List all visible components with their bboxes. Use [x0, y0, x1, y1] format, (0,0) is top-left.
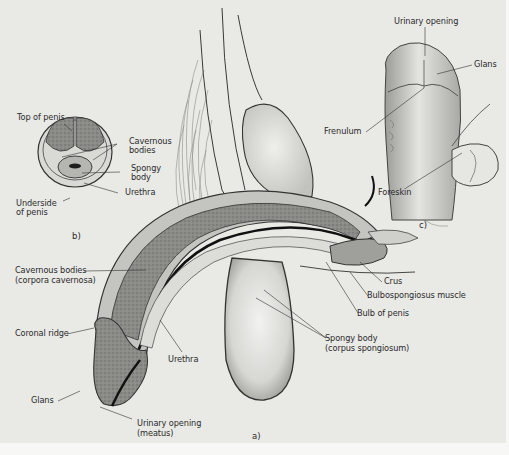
label-urethra-b: Urethra — [125, 188, 155, 198]
label-bulbospongiosus-muscle: Bulbospongiosus muscle — [367, 291, 466, 301]
label-crus: Crus — [384, 277, 402, 287]
label-glans-c: Glans — [474, 60, 497, 70]
label-cavernous-bodies-b-line2: bodies — [129, 146, 155, 156]
panel-tag-a: a) — [252, 431, 261, 441]
label-glans-a: Glans — [31, 396, 54, 406]
label-urinary-opening-c: Urinary opening — [394, 17, 458, 27]
panel-tag-c: c) — [419, 220, 427, 230]
label-bulb-of-penis: Bulb of penis — [357, 309, 409, 319]
label-coronal-ridge: Coronal ridge — [15, 329, 69, 339]
label-meatus: (meatus) — [137, 429, 173, 439]
label-urethra-a: Urethra — [168, 355, 198, 365]
label-spongy-body-b-line2: body — [131, 173, 151, 183]
cross-section-drawing — [38, 117, 112, 187]
testis — [225, 258, 294, 400]
panel-tag-b: b) — [72, 231, 81, 241]
illustration-artwork — [0, 0, 509, 455]
label-frenulum: Frenulum — [324, 127, 361, 137]
page-margin-bottom — [0, 443, 509, 455]
label-corpora-cavernosa: (corpora cavernosa) — [15, 276, 96, 286]
bladder — [242, 104, 313, 200]
label-underside-of-penis-line2: of penis — [16, 208, 48, 218]
label-foreskin: Foreskin — [378, 188, 411, 198]
anatomy-figure: Top of penis Cavernous bodies Spongy bod… — [0, 0, 509, 455]
label-top-of-penis: Top of penis — [17, 113, 65, 123]
label-corpus-spongiosum: (corpus spongiosum) — [325, 344, 409, 354]
